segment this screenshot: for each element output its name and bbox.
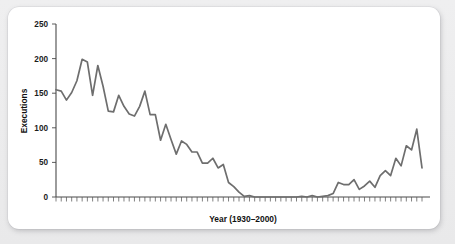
y-axis-tick-label: 200 (34, 55, 48, 64)
x-axis-title: Year (1930–2000) (209, 214, 277, 224)
chart-card: 050100150200250 Executions Year (1930–20… (8, 7, 440, 229)
y-axis-ticks (52, 24, 56, 197)
executions-series-line (56, 59, 422, 197)
y-axis-tick-labels: 050100150200250 (34, 20, 48, 202)
y-axis-tick-label: 250 (34, 20, 48, 29)
chart-svg: 050100150200250 Executions Year (1930–20… (8, 7, 440, 229)
y-axis-title: Executions (19, 88, 29, 133)
x-axis-ticks (56, 197, 422, 202)
executions-line-chart: 050100150200250 Executions Year (1930–20… (8, 7, 440, 229)
y-axis-tick-label: 0 (43, 193, 48, 202)
y-axis-tick-label: 150 (34, 89, 48, 98)
y-axis-tick-label: 100 (34, 124, 48, 133)
page-background: 050100150200250 Executions Year (1930–20… (0, 0, 455, 244)
y-axis-tick-label: 50 (39, 158, 49, 167)
